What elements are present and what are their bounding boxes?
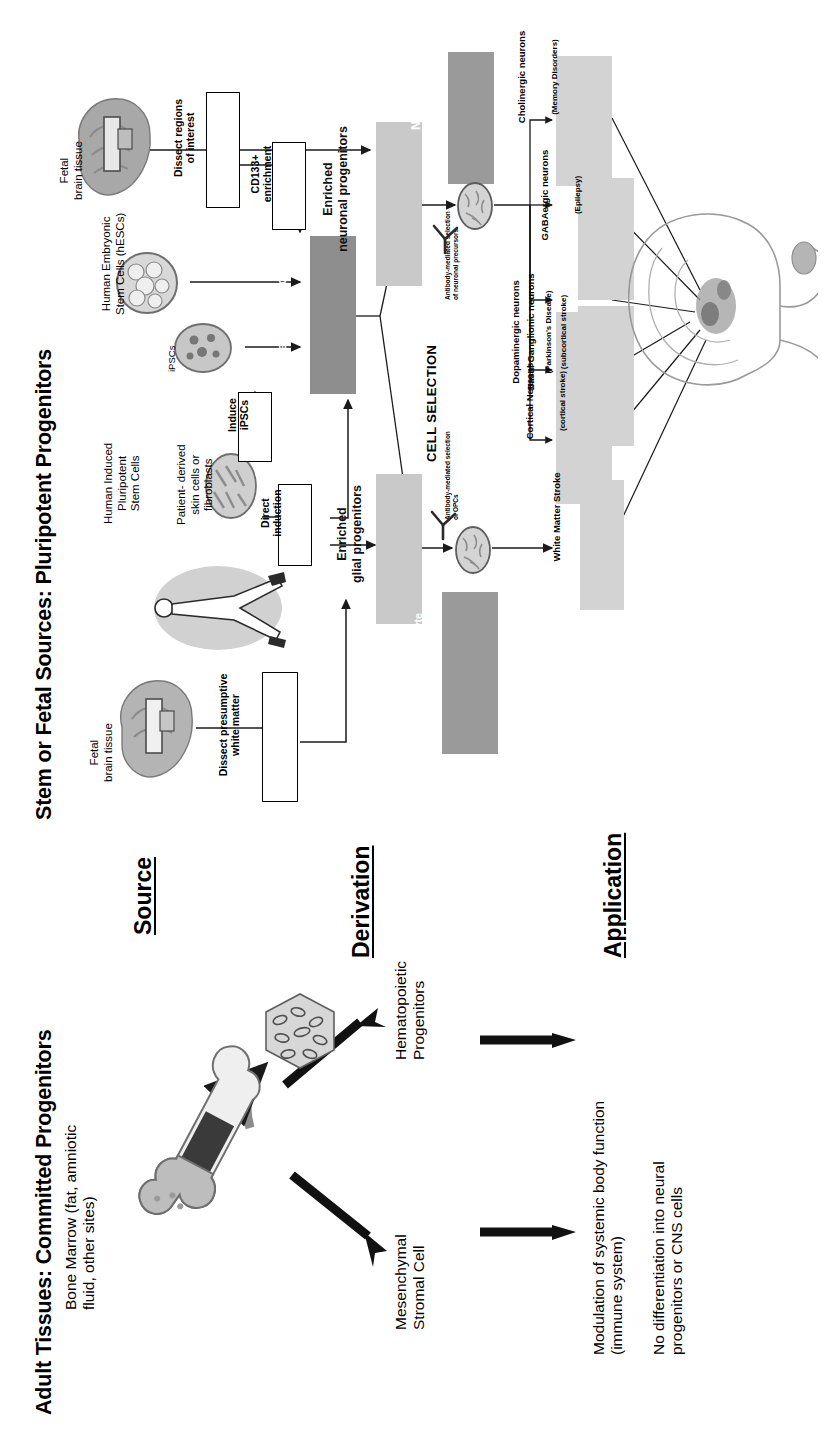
cell-selection-heading: CELL SELECTION [424, 345, 439, 462]
process-box-induce-ipscs-label: Induce iPSCs [226, 398, 251, 432]
selected-neuronal-cell-illustration [454, 180, 496, 232]
application-name-0: Cholinergic neurons [516, 31, 527, 123]
ipsc-cell-illustration [172, 320, 234, 376]
derivation-box-enriched-glial-label: Enriched glial progenitors [335, 485, 365, 583]
section-label-derivation: Derivation [348, 846, 375, 958]
source-label-human-ipsc: Human Induced Pluripotent Stem Cells [102, 443, 143, 524]
derivation-box-enriched-glial: Enriched glial progenitors [376, 474, 422, 624]
process-box-induce-ipscs: Induce iPSCs [238, 392, 272, 462]
application-name-5: White Matter Stroke [552, 472, 563, 561]
application-name-4: Cortical Neurons [524, 363, 535, 440]
process-box-direct-induction: Direct induction [278, 484, 312, 566]
process-box-dissect-white-matter: Dissect presumptive white matter [262, 672, 298, 802]
process-box-dissect-regions: Dissect regions of interest [206, 92, 240, 208]
figure-bottom-title: Adult Tissues: Committed Progenitors [32, 1030, 57, 1415]
derivation-box-neural-stem-cells-label: Neural stem cells [274, 256, 289, 359]
human-body-illustration [148, 548, 288, 668]
adult-label-mesenchymal: Mesenchymal Stromal Cell [392, 1234, 429, 1330]
derivation-box-neural-stem-cells: Neural stem cells [310, 236, 356, 394]
source-label-hescs: Human Embryonic Stem Cells (hESCs) [100, 213, 127, 315]
derivation-box-enriched-neuronal-label: Enriched neuronal progenitors [321, 126, 351, 252]
derivation-box-astro-oligo: Astrocyte- oligodendrocyte glial progeni… [442, 592, 498, 754]
bone-illustration [130, 1040, 310, 1270]
process-box-cd133-enrichment: CD133+ enrichment [272, 142, 306, 230]
process-box-dissect-white-matter-label: Dissect presumptive white matter [216, 673, 241, 776]
marrow-block-illustration [258, 988, 342, 1072]
application-box-5: White Matter Stroke [580, 480, 624, 610]
application-name-1: GABAergic neurons [539, 150, 550, 241]
adult-label-hematopoietic: Hematopoietic Progenitors [392, 961, 429, 1060]
section-label-source: Source [130, 857, 157, 935]
source-label-fetal-brain-top: Fetal brain tissue [58, 141, 85, 200]
process-box-cd133-label: CD133+ enrichment [248, 145, 273, 202]
derivation-box-neuronal-progenitor-cells-label: Neuronal progenitor cells [409, 56, 439, 150]
source-label-fetal-brain-bottom: Fetal brain tissue [88, 723, 115, 782]
application-indication-1: (Epilepsy) [573, 150, 582, 241]
selected-glial-cell-illustration [452, 524, 494, 576]
application-indication-4: (cortical stroke) [558, 363, 567, 440]
source-label-ipscs: iPSCs [166, 346, 177, 372]
section-label-application: Application [600, 833, 627, 958]
application-indication-0: (Memory Disorders) [550, 31, 559, 123]
brain-target-illustration [628, 190, 818, 440]
process-box-direct-induction-label: Direct induction [259, 489, 284, 536]
source-label-fibroblasts: Patient- derived skin cells or fibroblas… [175, 444, 216, 525]
derivation-box-astro-oligo-label: Astrocyte- oligodendrocyte glial progeni… [400, 603, 437, 706]
process-box-dissect-regions-label: Dissect regions of interest [172, 99, 197, 177]
cell-selection-glial-note: Antibody-mediated selection of OPCs [444, 431, 460, 520]
figure-top-title: Stem or Fetal Sources: Pluripotent Proge… [32, 349, 57, 820]
adult-outcome-no-differentiation: No differentiation into neural progenito… [650, 1161, 687, 1355]
adult-outcome-immune: Modulation of systemic body function (im… [590, 1101, 627, 1355]
derivation-box-neuronal-progenitor-cells: Neuronal progenitor cells [448, 52, 494, 184]
adult-label-bone-marrow: Bone Marrow (fat, amniotic fluid, other … [62, 1125, 99, 1310]
